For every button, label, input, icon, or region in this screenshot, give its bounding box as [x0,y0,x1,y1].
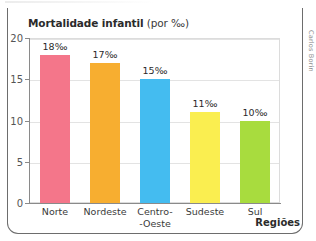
y-axis-tick-label: 20 [1,33,23,44]
y-axis-tick-label: 15 [1,74,23,85]
x-axis-title: Regiões [255,217,300,228]
figure-frame-nub-right [302,8,303,11]
bar [40,55,70,204]
y-axis-tick [25,203,29,204]
x-axis-tick-label-line: Sul [248,206,263,217]
x-axis-tick-label-line: Nordeste [83,206,126,217]
x-axis-tick-label: Sudeste [186,206,224,218]
bar-value-label: 11‰ [193,98,218,109]
bar [240,121,270,204]
scan-artifact [5,1,155,3]
bar [90,63,120,203]
x-axis-tick-label-line: Centro- [137,206,172,217]
x-axis-tick-label: Centro--Oeste [137,206,172,229]
chart-title-unit: (por ‰) [143,17,189,29]
y-axis-labels: 05101520 [0,0,23,241]
chart-title: Mortalidade infantil (por ‰) [28,17,189,29]
bar [140,79,170,203]
bar-value-label: 10‰ [243,107,268,118]
x-axis-tick-label-line: Norte [42,206,68,217]
x-axis-line [29,203,281,204]
x-axis-tick-label: Sul [248,206,263,218]
x-axis-tick-label: Nordeste [83,206,126,218]
bar-value-label: 17‰ [93,49,118,60]
y-axis-tick [25,38,29,39]
y-axis-tick-label: 5 [1,156,23,167]
bars-layer: 18‰17‰15‰11‰10‰ [30,38,280,203]
chart-title-main: Mortalidade infantil [28,17,143,29]
bar [190,112,220,203]
y-axis-tick-label: 10 [1,115,23,126]
chart-figure: Mortalidade infantil (por ‰) 05101520 18… [0,0,316,241]
x-axis-tick-label-line: Sudeste [186,206,224,217]
x-axis-tick-label-line: -Oeste [137,218,172,230]
y-axis-tick [25,79,29,80]
y-axis-tick [25,162,29,163]
credit-text: Carlos Borin [307,30,315,72]
bar-value-label: 18‰ [43,41,68,52]
y-axis-tick-label: 0 [1,198,23,209]
bar-value-label: 15‰ [143,65,168,76]
y-axis-tick [25,121,29,122]
x-axis-tick-label: Norte [42,206,68,218]
